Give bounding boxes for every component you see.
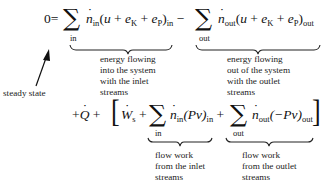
term-flow-work-in: nin(Pv)in + xyxy=(170,108,224,124)
subscript: K xyxy=(267,18,273,28)
equation-lhs: 0= xyxy=(44,12,58,26)
steady-state-label: steady state xyxy=(3,88,46,99)
energy-out-note: energy flowing out of the system with th… xyxy=(227,54,290,98)
flow-work-out-note: flow work from the outlet streams xyxy=(242,150,297,183)
plus: + xyxy=(72,107,80,122)
heat-symbol: Q xyxy=(80,107,90,122)
note-line: into the system xyxy=(100,65,156,76)
plus: + xyxy=(277,11,285,26)
pv-expression: (−Pv) xyxy=(270,107,302,122)
underbrace-energy-in-icon xyxy=(70,45,172,54)
sum-out-flow-symbol: ∑ xyxy=(230,102,247,126)
note-line: from the outlet xyxy=(242,161,297,172)
note-line: streams xyxy=(100,87,156,98)
subscript: out xyxy=(259,114,270,124)
plus: + xyxy=(217,107,225,122)
sum-out-flow-limit: out xyxy=(233,128,244,138)
underbrace-flow-work-out-icon xyxy=(226,138,313,146)
term-energy-out: nout(u + eK + eP)out xyxy=(218,12,314,28)
molar-flow-symbol: n xyxy=(170,107,177,122)
underbrace-energy-out-icon xyxy=(196,45,320,54)
note-line: energy flowing xyxy=(100,54,156,65)
sum-out-symbol: ∑ xyxy=(195,6,212,30)
left-bracket: [ xyxy=(111,96,120,127)
plus: + xyxy=(139,107,147,122)
sum-in-limit: in xyxy=(70,33,77,43)
sum-in-flow-symbol: ∑ xyxy=(149,102,166,126)
note-line: streams xyxy=(227,87,290,98)
u-symbol: u xyxy=(104,11,111,26)
molar-flow-symbol: n xyxy=(252,107,259,122)
pv-expression: (Pv) xyxy=(183,107,206,122)
zero: 0 xyxy=(44,11,51,26)
subscript: out xyxy=(303,18,314,28)
plus: + xyxy=(114,11,122,26)
note-line: energy flowing xyxy=(227,54,290,65)
note-line: with the inlet xyxy=(100,76,156,87)
note-line: from the inlet xyxy=(155,161,205,172)
equals-sign: = xyxy=(51,11,59,26)
steady-state-arrow-icon xyxy=(36,49,50,86)
molar-flow-symbol: n xyxy=(86,11,93,26)
term-shaft-work: Ws + xyxy=(121,108,147,124)
plus: + xyxy=(250,11,258,26)
right-bracket: ] xyxy=(312,96,321,127)
sum-in-symbol: ∑ xyxy=(63,6,80,30)
energy-in-note: energy flowing into the system with the … xyxy=(100,54,156,98)
u-symbol: u xyxy=(240,11,247,26)
note-line: out of the system xyxy=(227,65,290,76)
plus: + xyxy=(141,11,149,26)
underbrace-flow-work-in-icon xyxy=(148,138,212,146)
subscript: s xyxy=(132,114,135,124)
term-flow-work-out: nout(−Pv)out xyxy=(252,108,313,124)
note-line: streams xyxy=(155,172,205,183)
plus: + xyxy=(93,107,101,122)
subscript: in xyxy=(207,114,214,124)
sum-out-limit: out xyxy=(199,33,210,43)
sum-in-flow-limit: in xyxy=(155,128,162,138)
shaft-work-symbol: W xyxy=(121,107,132,122)
subscript: K xyxy=(131,18,137,28)
flow-work-in-note: flow work from the inlet streams xyxy=(155,150,205,183)
note-line: flow work xyxy=(155,150,205,161)
subscript: in xyxy=(167,18,174,28)
minus-sign: − xyxy=(177,11,185,26)
note-line: streams xyxy=(242,172,297,183)
note-line: flow work xyxy=(242,150,297,161)
term-energy-in: nin(u + eK + eP)in − xyxy=(86,12,184,28)
subscript: out xyxy=(225,18,236,28)
molar-flow-symbol: n xyxy=(218,11,225,26)
term-heat-work: +Q + xyxy=(72,108,100,122)
note-line: with the outlet xyxy=(227,76,290,87)
